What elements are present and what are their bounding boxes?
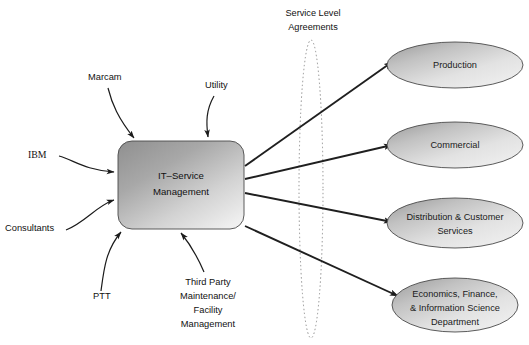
connector-marcam [108, 88, 134, 138]
connector-consultants [66, 200, 114, 230]
diagram-canvas: IT–Service Management Production Commerc… [0, 0, 529, 345]
service-arrows [245, 62, 398, 296]
customer-economics[interactable]: Economics, Finance, & Information Scienc… [392, 278, 518, 332]
connector-ibm [59, 156, 114, 172]
center-node-line-1: IT–Service [158, 170, 204, 181]
supplier-label-ptt: PTT [93, 291, 111, 301]
supplier-label-marcam: Marcam [88, 72, 122, 82]
connector-utility [207, 96, 214, 137]
customer-distribution-label-1: Distribution & Customer [406, 212, 503, 222]
center-node-shape [118, 141, 244, 229]
customer-economics-label-2: & Information Science [410, 303, 500, 313]
customer-commercial-label: Commercial [430, 140, 479, 150]
supplier-label-third-party-line-4: Management [181, 319, 236, 329]
supplier-label-third-party-line-1: Third Party [185, 277, 231, 287]
service-level-agreements-boundary [299, 40, 323, 338]
supplier-label-third-party-line-3: Facility [194, 305, 223, 315]
sla-label-line-2: Agreements [288, 22, 338, 32]
supplier-label-third-party: Third Party Maintenance/ Facility Manage… [180, 277, 236, 329]
arrow-to-distribution [245, 193, 392, 222]
service-level-agreements-label: Service Level Agreements [285, 8, 340, 32]
supplier-label-consultants: Consultants [5, 223, 54, 233]
customer-distribution[interactable]: Distribution & Customer Services [387, 198, 523, 248]
customer-economics-label-3: Department [431, 317, 479, 327]
arrow-to-economics [245, 226, 398, 296]
customer-distribution-shape [387, 198, 523, 248]
customer-commercial[interactable]: Commercial [387, 122, 523, 168]
sla-label-line-1: Service Level [285, 8, 340, 18]
supplier-label-third-party-line-2: Maintenance/ [180, 291, 236, 301]
customer-economics-label-1: Economics, Finance, [412, 289, 497, 299]
customer-production-label: Production [433, 60, 477, 70]
customer-distribution-label-2: Services [437, 226, 473, 236]
supplier-label-ibm: IBM [28, 149, 47, 160]
center-node-line-2: Management [153, 186, 209, 197]
supplier-label-utility: Utility [205, 80, 228, 90]
connector-third-party [181, 233, 204, 272]
connector-ptt [101, 232, 121, 291]
it-service-management-diagram: IT–Service Management Production Commerc… [0, 0, 529, 345]
center-node[interactable]: IT–Service Management [118, 141, 244, 229]
customer-production[interactable]: Production [387, 42, 523, 88]
